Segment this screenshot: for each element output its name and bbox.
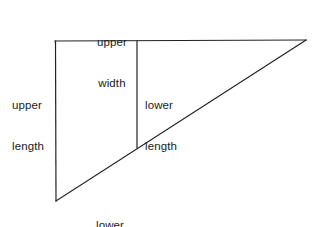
- label-lower-width: lower width: [64, 192, 156, 227]
- label-lower-length: lower length: [145, 72, 215, 180]
- label-upper-length: upper length: [12, 72, 82, 180]
- label-upper-length-line2: length: [12, 140, 82, 154]
- label-lower-length-line2: length: [145, 140, 215, 154]
- label-upper-length-line1: upper: [12, 99, 82, 113]
- label-lower-width-line1: lower: [64, 219, 156, 227]
- geometry-diagram: upper width upper length lower length lo…: [0, 0, 314, 227]
- label-upper-width-line1: upper: [66, 36, 158, 50]
- label-lower-length-line1: lower: [145, 99, 215, 113]
